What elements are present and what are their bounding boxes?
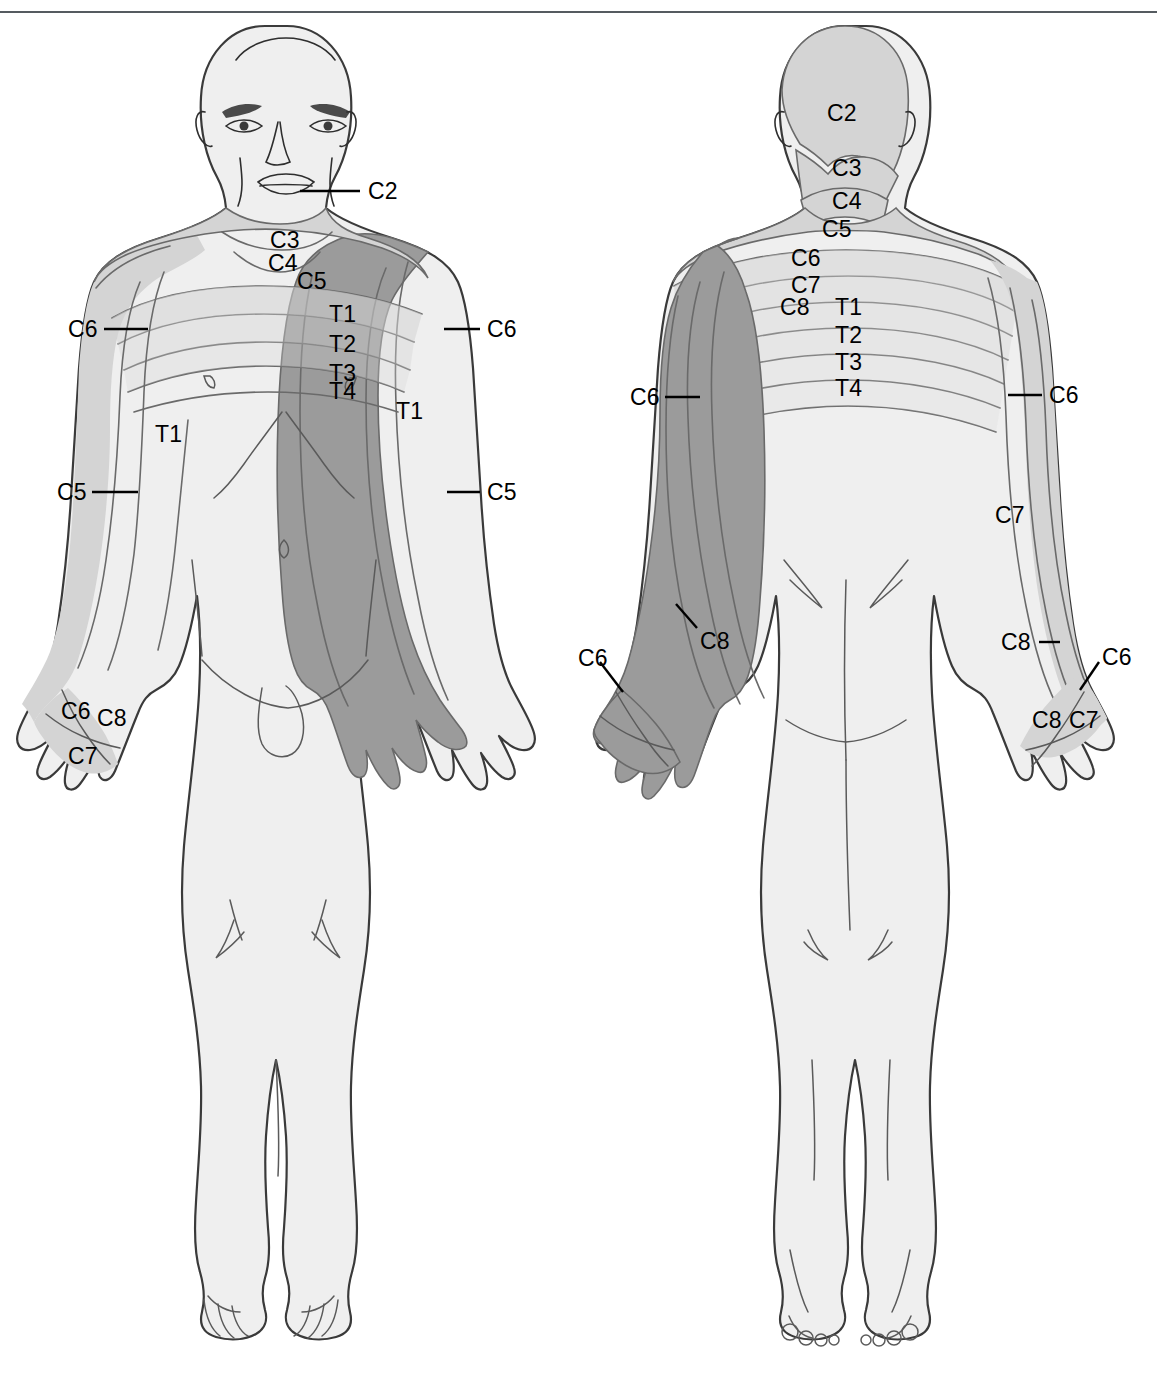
- anterior-body-outline: [17, 26, 535, 1339]
- dermatome-label-ant-c5-neck: C5: [297, 270, 327, 293]
- dermatome-label-post-c6-lhand: C6: [578, 647, 608, 670]
- figures-stage: .sk { fill:#efefef; stroke:#3a3a3a; stro…: [0, 0, 1157, 1385]
- dermatome-label-post-c6-rhand: C6: [1102, 646, 1132, 669]
- dermatome-label-ant-c6-left: C6: [68, 318, 98, 341]
- anterior-pupil-right: [324, 122, 333, 131]
- dermatome-label-ant-t1-chest: T1: [329, 303, 356, 326]
- dermatome-label-ant-c2: C2: [368, 180, 398, 203]
- dermatome-label-post-t1-back: T1: [835, 296, 862, 319]
- dermatome-label-post-t2-back: T2: [835, 324, 862, 347]
- dermatome-label-ant-t2-chest: T2: [329, 333, 356, 356]
- posterior-toe-l4: [829, 1335, 839, 1345]
- dermatome-label-ant-c8-hand: C8: [97, 707, 127, 730]
- posterior-toe-r4: [861, 1335, 871, 1345]
- dermatome-label-post-c8-nape: C8: [780, 296, 810, 319]
- dermatome-label-ant-c5-right: C5: [487, 481, 517, 504]
- anterior-figure: [17, 26, 535, 1339]
- dermatome-label-ant-t1-left: T1: [155, 423, 182, 446]
- dermatome-label-post-c6-right: C6: [1049, 384, 1079, 407]
- dermatome-label-post-t4-back: T4: [835, 377, 862, 400]
- dermatome-label-post-c8-rhand: C8: [1032, 709, 1062, 732]
- dermatome-label-post-c6-nape: C6: [791, 247, 821, 270]
- posterior-figure: [593, 26, 1113, 1346]
- body-illustrations: .sk { fill:#efefef; stroke:#3a3a3a; stro…: [0, 0, 1157, 1385]
- dermatome-label-post-c7-rhand: C7: [1069, 709, 1099, 732]
- dermatome-label-post-c8-right: C8: [1001, 631, 1031, 654]
- dermatome-label-ant-c7-hand: C7: [68, 745, 98, 768]
- dermatome-label-post-c2: C2: [827, 102, 857, 125]
- dermatome-label-post-t3-back: T3: [835, 351, 862, 374]
- dermatome-label-post-c5: C5: [822, 218, 852, 241]
- dermatome-label-ant-c5-left: C5: [57, 481, 87, 504]
- dermatome-label-post-c7-right: C7: [995, 504, 1025, 527]
- dermatome-label-ant-t4-chest: T4: [329, 380, 356, 403]
- dermatome-label-ant-c4: C4: [268, 252, 298, 275]
- dermatome-label-ant-t1-right: T1: [396, 400, 423, 423]
- anterior-pupil-left: [240, 122, 249, 131]
- dermatome-label-ant-c6-right: C6: [487, 318, 517, 341]
- dermatome-label-post-c8-left: C8: [700, 630, 730, 653]
- dermatome-label-ant-c6-hand: C6: [61, 700, 91, 723]
- dermatome-label-ant-c3: C3: [270, 229, 300, 252]
- dermatome-diagram-page: .sk { fill:#efefef; stroke:#3a3a3a; stro…: [0, 0, 1157, 1385]
- dermatome-label-post-c4: C4: [832, 190, 862, 213]
- dermatome-label-post-c3: C3: [832, 157, 862, 180]
- dermatome-label-post-c6-left: C6: [630, 386, 660, 409]
